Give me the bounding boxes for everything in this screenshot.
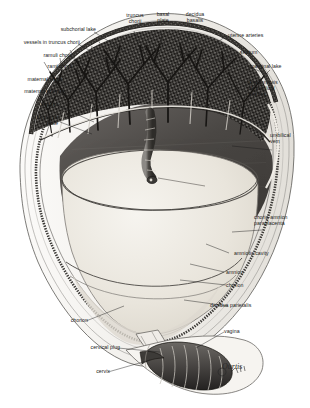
label-septum-left: septum bbox=[14, 101, 58, 107]
label-amnion: amnion bbox=[226, 269, 266, 275]
label-ramuli-chorii: ramuli chorii bbox=[16, 52, 72, 58]
label-chorionic-plate: chorionic plate bbox=[12, 114, 58, 126]
label-maternal-veins: maternal veins bbox=[4, 76, 62, 82]
label-rami-chorii: rami chorii bbox=[16, 63, 72, 69]
label-decidua-basalis: decidua basalis bbox=[178, 11, 212, 23]
label-chorion-right: chorion bbox=[226, 282, 266, 288]
label-truncus-chorii: truncus chorii bbox=[118, 12, 152, 24]
anatomical-illustration bbox=[0, 0, 310, 408]
label-vessels-in-truncus-chorii: vessels in truncus chorii bbox=[2, 39, 80, 45]
label-basal-plate: basal plate bbox=[148, 11, 178, 23]
label-marginal-lake: marginal lake bbox=[250, 63, 306, 69]
label-subchorial-lake: subchorial lake bbox=[18, 26, 96, 32]
label-chorio-amnion-paraplacenta: chorio-amnion paraplacenta bbox=[254, 214, 308, 226]
cervix-and-vagina bbox=[126, 330, 263, 394]
label-amniotic-cavity: amniotic cavity bbox=[234, 250, 292, 256]
label-chorion-left: chorion bbox=[44, 317, 88, 323]
illustration-page: truncus chorii basal plate decidua basal… bbox=[0, 0, 310, 408]
label-uterine-arteries: uterine arteries bbox=[228, 32, 290, 38]
label-septum-right: septum bbox=[240, 49, 280, 55]
label-cervix: cervix bbox=[76, 368, 110, 374]
label-decidua-parietalis: decidua parietalis bbox=[210, 302, 276, 308]
artist-signature: Ourtis bbox=[222, 362, 242, 371]
label-umbilical-vein: umbilical vein bbox=[270, 132, 308, 144]
label-maternal-arteries: maternal arteries bbox=[0, 88, 64, 94]
label-anastomosis-umbilical-arteries: anastomosis of umbilical arteries bbox=[248, 79, 304, 97]
label-vagina: vagina bbox=[224, 328, 260, 334]
label-cervical-plug: cervical plug bbox=[62, 344, 120, 350]
